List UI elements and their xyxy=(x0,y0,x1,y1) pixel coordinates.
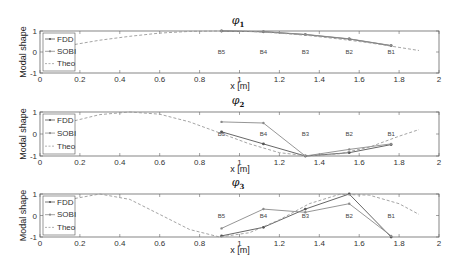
x-tick-label: 1.4 xyxy=(314,239,326,248)
legend-marker xyxy=(49,119,51,121)
bay-label-b5: B5 xyxy=(218,49,226,55)
x-tick-label: 0.6 xyxy=(154,75,166,84)
marker-fdd xyxy=(220,130,223,133)
y-tick-label: 0 xyxy=(33,48,38,57)
marker-sobi xyxy=(390,235,392,237)
marker-sobi xyxy=(262,208,264,210)
subplot-2: 00.20.40.60.811.21.41.61.82-101Modal sha… xyxy=(18,94,442,174)
x-tick-label: 0 xyxy=(38,75,43,84)
bay-label-b4: B4 xyxy=(260,213,268,219)
bay-label-b4: B4 xyxy=(260,49,268,55)
subplot-title: φ3 xyxy=(232,176,245,191)
x-axis-label: x [m] xyxy=(230,164,250,174)
x-tick-label: 2 xyxy=(437,158,442,167)
marker-sobi xyxy=(262,122,264,124)
y-axis-label: Modal shape xyxy=(18,190,28,242)
marker-sobi xyxy=(220,121,222,123)
bay-label-b2: B2 xyxy=(346,49,354,55)
x-tick-label: 1.2 xyxy=(274,239,286,248)
bay-label-b2: B2 xyxy=(346,213,354,219)
subplot-title: φ1 xyxy=(232,14,245,29)
bay-label-b1: B1 xyxy=(387,213,395,219)
x-tick-label: 0.4 xyxy=(114,239,126,248)
x-tick-label: 0.8 xyxy=(194,75,206,84)
legend-label-fdd: FDD xyxy=(57,116,74,125)
legend-marker xyxy=(49,132,51,134)
x-axis-label: x [m] xyxy=(230,81,250,91)
x-tick-label: 0.2 xyxy=(74,158,86,167)
y-tick-label: -1 xyxy=(30,233,38,242)
figure: 00.20.40.60.811.21.41.61.82-101Modal sha… xyxy=(0,0,463,266)
bay-label-b1: B1 xyxy=(387,131,395,137)
legend: FDDSOBITheo xyxy=(43,196,76,235)
legend-label-sobi: SOBI xyxy=(57,129,76,138)
x-tick-label: 1.2 xyxy=(274,158,286,167)
subplot-title: φ2 xyxy=(232,94,245,109)
legend-marker xyxy=(49,50,51,52)
plot-area xyxy=(40,31,439,73)
marker-sobi xyxy=(348,202,350,204)
legend-label-fdd: FDD xyxy=(57,35,74,44)
legend-label-theo: Theo xyxy=(57,142,76,151)
legend-label-theo: Theo xyxy=(57,223,76,232)
x-tick-label: 0.6 xyxy=(154,239,166,248)
subplot-1: 00.20.40.60.811.21.41.61.82-101Modal sha… xyxy=(18,14,442,91)
legend-label-sobi: SOBI xyxy=(57,210,76,219)
y-tick-label: 1 xyxy=(33,27,38,36)
x-tick-label: 0 xyxy=(38,239,43,248)
legend: FDDSOBITheo xyxy=(43,114,76,154)
y-tick-label: -1 xyxy=(30,69,38,78)
bay-label-b2: B2 xyxy=(346,131,354,137)
marker-fdd xyxy=(304,208,307,211)
legend-marker xyxy=(49,201,51,203)
legend-label-fdd: FDD xyxy=(57,198,74,207)
x-tick-label: 2 xyxy=(437,75,442,84)
plot-area xyxy=(40,194,439,237)
x-tick-label: 1.6 xyxy=(354,239,366,248)
legend-marker xyxy=(49,38,51,40)
x-tick-label: 0.4 xyxy=(114,75,126,84)
legend-marker xyxy=(49,214,51,216)
marker-sobi xyxy=(220,227,222,229)
x-tick-label: 1.8 xyxy=(394,158,406,167)
x-axis-label: x [m] xyxy=(230,245,250,255)
x-tick-label: 0.8 xyxy=(194,158,206,167)
bay-label-b3: B3 xyxy=(302,49,310,55)
y-tick-label: 1 xyxy=(33,108,38,117)
x-tick-label: 1.4 xyxy=(314,158,326,167)
bay-label-b3: B3 xyxy=(302,131,310,137)
y-tick-label: 0 xyxy=(33,212,38,221)
y-axis-label: Modal shape xyxy=(18,108,28,160)
bay-label-b1: B1 xyxy=(387,49,395,55)
plot-area xyxy=(40,112,439,156)
x-tick-label: 1.8 xyxy=(394,75,406,84)
x-tick-label: 0.8 xyxy=(194,239,206,248)
y-tick-label: 0 xyxy=(33,130,38,139)
x-tick-label: 1.2 xyxy=(274,75,286,84)
marker-sobi xyxy=(348,148,350,150)
marker-sobi xyxy=(304,211,306,213)
legend-label-sobi: SOBI xyxy=(57,47,76,56)
x-tick-label: 2 xyxy=(437,239,442,248)
bay-label-b4: B4 xyxy=(260,131,268,137)
marker-sobi xyxy=(348,38,350,40)
x-tick-label: 1.8 xyxy=(394,239,406,248)
x-tick-label: 0.2 xyxy=(74,75,86,84)
y-axis-label: Modal shape xyxy=(18,26,28,78)
x-tick-label: 0.6 xyxy=(154,158,166,167)
x-tick-label: 0.2 xyxy=(74,239,86,248)
x-tick-label: 1.6 xyxy=(354,75,366,84)
bay-label-b5: B5 xyxy=(218,213,226,219)
marker-fdd xyxy=(262,143,265,146)
y-tick-label: -1 xyxy=(30,152,38,161)
x-tick-label: 0 xyxy=(38,158,43,167)
x-tick-label: 0.4 xyxy=(114,158,126,167)
x-tick-label: 1.6 xyxy=(354,158,366,167)
legend: FDDSOBITheo xyxy=(43,33,76,71)
subplot-3: 00.20.40.60.811.21.41.61.82-101Modal sha… xyxy=(18,176,442,255)
marker-sobi xyxy=(390,143,392,145)
y-tick-label: 1 xyxy=(33,190,38,199)
legend-label-theo: Theo xyxy=(57,59,76,68)
x-tick-label: 1.4 xyxy=(314,75,326,84)
